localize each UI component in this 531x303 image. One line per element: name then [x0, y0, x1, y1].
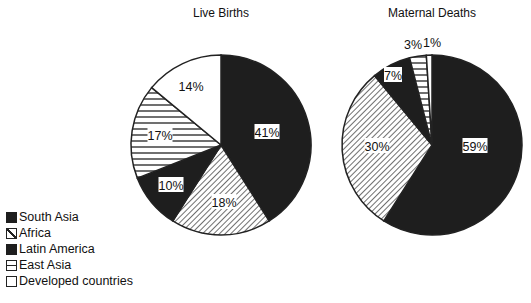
legend-item-east-asia: East Asia	[6, 257, 133, 273]
live-births-pie: 41%18%10%17%14%	[131, 55, 311, 235]
slice-label-africa: 18%	[211, 196, 236, 210]
slice-label-latin-america: 10%	[158, 179, 183, 193]
latin-america-swatch-icon	[6, 244, 17, 255]
legend-item-africa: Africa	[6, 225, 133, 241]
slice-label-south-asia: 41%	[254, 126, 279, 140]
slice-label-east-asia: 3%	[404, 38, 422, 52]
africa-swatch-icon	[6, 228, 17, 239]
slice-label-east-asia: 17%	[147, 129, 172, 143]
legend-item-developed-countries: Developed countries	[6, 273, 133, 289]
slice-label-developed-countries: 1%	[423, 36, 441, 50]
slice-label-south-asia: 59%	[462, 140, 487, 154]
legend-item-latin-america: Latin America	[6, 241, 133, 257]
south-asia-swatch-icon	[6, 212, 17, 223]
slice-label-developed-countries: 14%	[178, 80, 203, 94]
slice-label-africa: 30%	[364, 140, 389, 154]
legend-item-south-asia: South Asia	[6, 209, 133, 225]
maternal-deaths-pie: 59%30%7%3%1%	[342, 36, 522, 235]
slice-label-latin-america: 7%	[384, 69, 402, 83]
developed-countries-swatch-icon	[6, 276, 17, 287]
east-asia-swatch-icon	[6, 260, 17, 271]
legend: South Asia Africa Latin America East Asi…	[6, 209, 133, 289]
